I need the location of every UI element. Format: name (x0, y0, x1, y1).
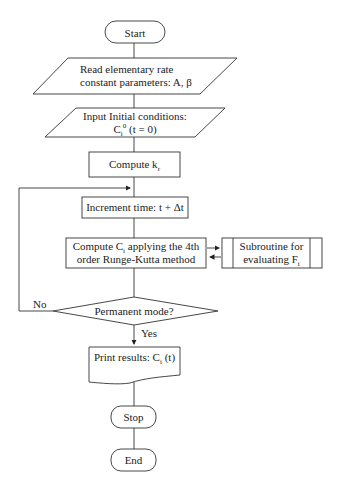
input-initial-line-1: Input Initial conditions: (60, 110, 210, 123)
read-params-line-2: constant parameters: A, β (80, 76, 220, 89)
no-label: No (33, 298, 46, 311)
subroutine-line-1: Subroutine for (233, 240, 310, 253)
start-label: Start (105, 27, 165, 40)
yes-label: Yes (141, 327, 157, 340)
read-params-label: Read elementary rate constant parameters… (50, 63, 220, 89)
subroutine-line-2: evaluating Fi (233, 253, 310, 266)
read-params-line-1: Read elementary rate (80, 63, 220, 76)
subroutine-label: Subroutine for evaluating Fi (233, 240, 310, 266)
compute-ci-label: Compute Ci applying the 4th order Runge-… (66, 240, 206, 266)
compute-ci-line-2: order Runge-Kutta method (66, 253, 206, 266)
compute-ci-line-1: Compute Ci applying the 4th (66, 240, 206, 253)
decision-label: Permanent mode? (84, 305, 184, 318)
compute-kr-label: Compute kr (89, 158, 180, 171)
input-initial-line-2: Ci0 (t = 0) (60, 123, 210, 136)
increment-time-label: Increment time: t + Δt (82, 201, 188, 214)
input-initial-label: Input Initial conditions: Ci0 (t = 0) (60, 110, 210, 136)
stop-label: Stop (111, 411, 156, 424)
end-label: End (111, 454, 156, 467)
print-results-label: Print results: Ci (t) (89, 351, 180, 364)
